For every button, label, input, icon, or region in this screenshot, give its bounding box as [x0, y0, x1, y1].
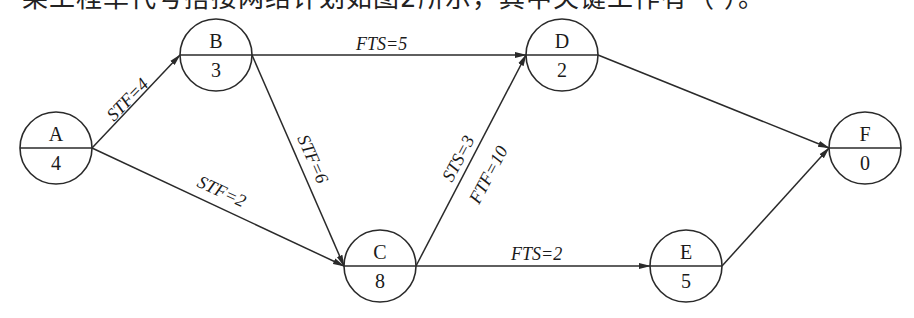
edge-c-e: FTS=2 [416, 244, 650, 266]
node-b-duration: 3 [211, 59, 221, 81]
node-d-id: D [555, 30, 569, 52]
edge-label-a-b: STF=4 [102, 74, 152, 125]
node-e-duration: 5 [681, 270, 691, 292]
node-b: B 3 [180, 19, 252, 91]
node-e-id: E [680, 241, 692, 263]
node-a-id: A [49, 123, 64, 145]
edge-e-f [722, 148, 829, 266]
node-d: D 2 [526, 19, 598, 91]
edge-label-a-c: STF=2 [194, 171, 249, 211]
node-f-id: F [859, 123, 870, 145]
node-d-duration: 2 [557, 59, 567, 81]
edge-b-d: FTS=5 [252, 34, 526, 55]
edge-label-c-e: FTS=2 [510, 244, 562, 264]
node-c: C 8 [344, 230, 416, 302]
node-c-duration: 8 [375, 270, 385, 292]
node-f: F 0 [829, 112, 901, 184]
edge-a-b: STF=4 [92, 55, 180, 148]
edge-label-b-d: FTS=5 [355, 34, 407, 54]
network-diagram: STF=4 STF=2 FTS=5 STF=6 STS=3 FTF=10 FTS… [0, 0, 914, 318]
node-c-id: C [373, 241, 386, 263]
node-a: A 4 [20, 112, 92, 184]
node-e: E 5 [650, 230, 722, 302]
edge-d-f [598, 55, 829, 148]
node-f-duration: 0 [860, 152, 870, 174]
edge-b-c: STF=6 [252, 55, 344, 266]
node-a-duration: 4 [51, 152, 61, 174]
edge-label-b-c: STF=6 [293, 131, 332, 186]
edge-c-d: STS=3 FTF=10 [416, 55, 526, 266]
node-b-id: B [209, 30, 222, 52]
